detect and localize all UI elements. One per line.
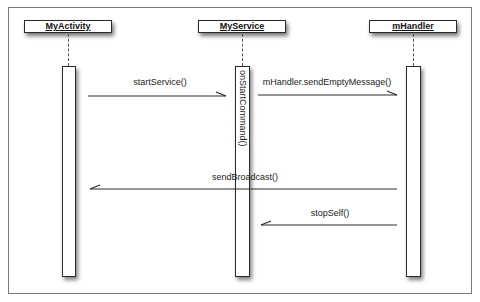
- message-arrow-stopself: [261, 221, 397, 225]
- message-label-sendemptymessage: mHandler.sendEmptyMessage(): [254, 77, 400, 87]
- message-arrow-sendbroadcast: [90, 185, 397, 189]
- message-label-stopself: stopSelf(): [290, 208, 370, 218]
- message-arrow-startservice: [88, 92, 226, 96]
- message-arrow-sendemptymessage: [258, 91, 397, 95]
- message-arrows: [0, 0, 480, 302]
- message-label-startservice: startService(): [110, 77, 210, 87]
- message-label-sendbroadcast: sendBroadcast(): [190, 172, 300, 182]
